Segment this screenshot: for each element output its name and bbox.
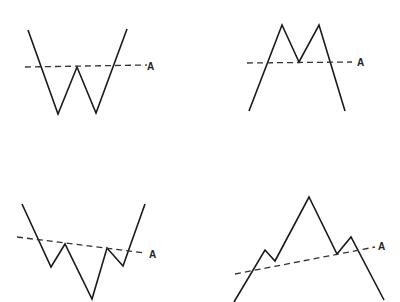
neckline-dashed [25,65,147,67]
panel-head-and-shoulders: A [234,197,385,302]
neckline-label: A [357,57,364,68]
neckline-dashed [247,62,352,63]
neckline-label: A [149,249,156,260]
panel-double-bottom: A [25,29,154,114]
price-line [28,29,127,114]
price-line [22,204,145,299]
neckline-dashed [17,237,145,253]
panel-double-top: A [247,25,364,111]
chart-patterns-diagram: A A A A [0,0,400,302]
neckline-dashed [235,247,375,274]
price-line [234,197,384,302]
neckline-label: A [378,241,385,252]
panel-inverse-head-and-shoulders: A [17,204,156,299]
neckline-label: A [147,61,154,72]
price-line [249,25,345,111]
